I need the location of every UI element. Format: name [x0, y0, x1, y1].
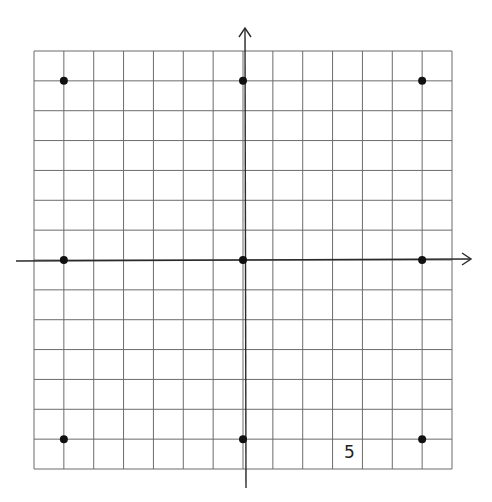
data-point	[418, 77, 426, 85]
data-point	[418, 256, 426, 264]
scale-label: 5	[344, 442, 355, 462]
data-point	[239, 256, 247, 264]
data-point	[60, 435, 68, 443]
data-point	[239, 435, 247, 443]
data-point	[60, 77, 68, 85]
data-point	[239, 77, 247, 85]
data-point	[418, 435, 426, 443]
coordinate-grid	[0, 0, 492, 502]
data-point	[60, 256, 68, 264]
